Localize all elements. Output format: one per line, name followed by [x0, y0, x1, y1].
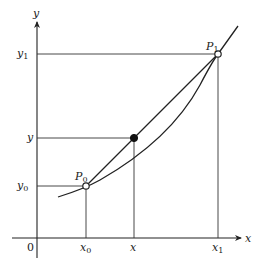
interpolated-point [130, 134, 137, 141]
x0-label: x0 [80, 241, 91, 255]
interpolation-diagram: y x 0 y1 y y0 x0 x x1 P0 P1 [0, 0, 261, 270]
x-axis-label: x [245, 232, 252, 245]
y-axis-label: y [32, 7, 40, 20]
p0-label: P0 [74, 170, 88, 184]
y-label: y [26, 131, 34, 144]
p1-label: P1 [205, 40, 219, 54]
x1-label: x1 [212, 241, 223, 255]
origin-label: 0 [27, 241, 34, 254]
y1-label: y1 [16, 47, 28, 61]
y0-label: y0 [16, 179, 28, 193]
secant-line [86, 54, 218, 186]
x-label: x [130, 241, 137, 254]
